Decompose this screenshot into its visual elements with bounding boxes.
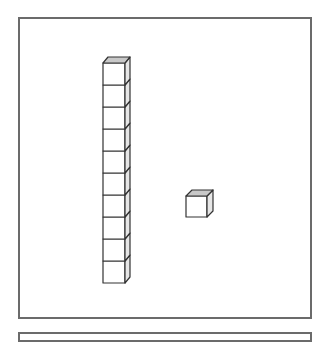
unit-cube: [186, 190, 213, 217]
cube-top-face: [103, 57, 130, 63]
cube-front-face: [103, 129, 125, 151]
cube-front-face: [103, 195, 125, 217]
ten-rod: [103, 57, 130, 283]
cube-front-face: [103, 217, 125, 239]
cube-front-face: [103, 239, 125, 261]
cube-front-face: [103, 261, 125, 283]
cube-front-face: [103, 63, 125, 85]
cube-front-face: [103, 173, 125, 195]
cube-front-face: [103, 107, 125, 129]
cube-front-face: [103, 151, 125, 173]
cube-front-face: [103, 85, 125, 107]
cube-front-face: [186, 196, 207, 217]
